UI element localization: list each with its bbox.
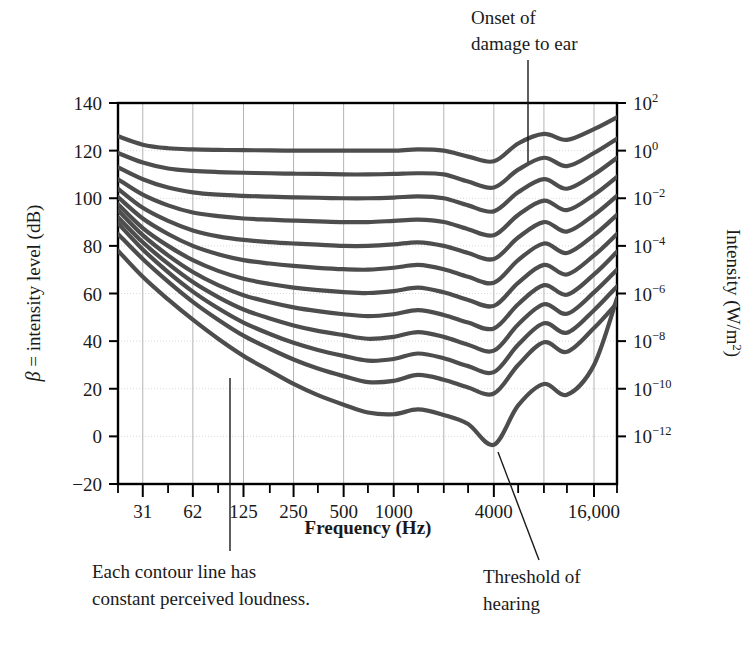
y-tick-label-left: 40 (83, 331, 102, 352)
y-tick-base: 10 (633, 188, 652, 209)
annotation-onset-line1: Onset of (471, 7, 537, 28)
x-tick-label: 62 (183, 501, 202, 522)
y-tick-label-left: 140 (74, 93, 103, 114)
y-tick-exponent: −6 (652, 282, 665, 296)
x-tick-label: 31 (133, 501, 152, 522)
y-tick-base: 10 (633, 236, 652, 257)
annotation-contour-line2: constant perceived loudness. (92, 588, 310, 609)
y-tick-exponent: 2 (652, 91, 658, 105)
y-tick-exponent: −12 (652, 424, 672, 438)
y-tick-label-left: 80 (83, 236, 102, 257)
y-axis-right-title-main: Intensity (W/m (722, 229, 744, 345)
y-tick-base: 10 (633, 379, 652, 400)
y-tick-label-left: 20 (83, 379, 102, 400)
y-tick-base: 10 (633, 426, 652, 447)
annotation-threshold-line1: Threshold of (483, 566, 581, 587)
x-tick-label: 4000 (475, 501, 513, 522)
equal-loudness-chart: 140120100806040200−20 10210010−210−410−6… (0, 0, 755, 648)
x-tick-label: 125 (229, 501, 258, 522)
y-tick-exponent: −8 (652, 329, 665, 343)
y-tick-label-left: −20 (72, 474, 102, 495)
x-axis-title: Frequency (Hz) (305, 517, 432, 539)
y-axis-left-title-rest: = intensity level (dB) (23, 205, 45, 372)
y-axis-right-title: Intensity (W/m2) (722, 229, 744, 357)
figure-root: 140120100806040200−20 10210010−210−410−6… (0, 0, 755, 648)
y-tick-label-left: 60 (83, 284, 102, 305)
annotation-contour-line1: Each contour line has (92, 561, 256, 582)
y-tick-exponent: −10 (652, 377, 672, 391)
y-tick-base: 10 (633, 284, 652, 305)
y-tick-label-left: 120 (74, 141, 103, 162)
y-tick-label-left: 0 (93, 426, 103, 447)
x-tick-label: 250 (279, 501, 308, 522)
y-axis-right-title-end: ) (722, 351, 744, 357)
y-tick-exponent: −4 (652, 234, 666, 248)
y-tick-base: 10 (633, 141, 652, 162)
annotation-threshold-line2: hearing (483, 593, 540, 614)
y-tick-base: 10 (633, 93, 652, 114)
beta-symbol: β (22, 371, 45, 382)
x-tick-label: 16,000 (568, 501, 620, 522)
y-axis-left-title: β = intensity level (dB) (22, 205, 45, 383)
annotation-onset-line2: damage to ear (471, 33, 578, 54)
y-tick-exponent: 0 (652, 139, 658, 153)
y-tick-label-left: 100 (74, 188, 103, 209)
y-tick-exponent: −2 (652, 186, 665, 200)
y-tick-base: 10 (633, 331, 652, 352)
